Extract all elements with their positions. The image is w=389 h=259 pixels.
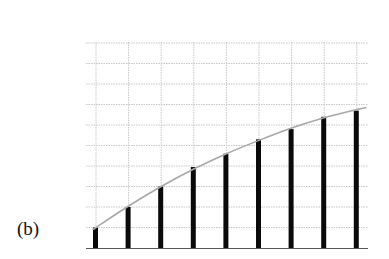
bar: [289, 129, 294, 248]
bar: [321, 117, 326, 248]
bar: [191, 167, 196, 248]
bar-chart: [0, 0, 389, 259]
bar: [93, 228, 98, 249]
bar: [354, 111, 359, 248]
bar: [158, 187, 163, 249]
bar: [126, 207, 131, 248]
bar: [223, 154, 228, 248]
bar: [256, 139, 261, 248]
